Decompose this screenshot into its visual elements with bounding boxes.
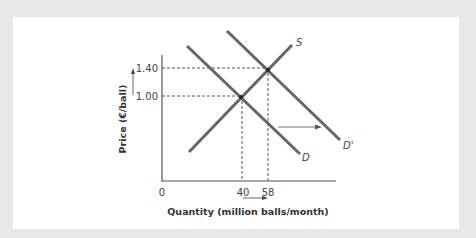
equilibrium-point-new (266, 68, 270, 72)
price-increase-arrow-icon (131, 68, 135, 95)
label-supply: S (296, 37, 303, 48)
supply-demand-chart: 1.40 1.00 0 40 58 S D D' Quantity (milli… (0, 0, 476, 238)
y-tick-1-40: 1.40 (136, 63, 158, 74)
label-demand: D (302, 152, 310, 163)
label-demand-shifted: D' (343, 140, 353, 151)
equilibrium-point-original (239, 95, 243, 99)
demand-curve-d-prime (227, 31, 340, 140)
x-axis-title: Quantity (million balls/month) (167, 206, 328, 217)
x-tick-origin: 0 (159, 187, 165, 198)
y-tick-1-00: 1.00 (136, 91, 158, 102)
y-axis-title: Price (€/ball) (117, 85, 128, 154)
x-tick-40: 40 (237, 187, 250, 198)
x-tick-58: 58 (262, 187, 275, 198)
demand-shift-arrow-icon (278, 125, 322, 130)
